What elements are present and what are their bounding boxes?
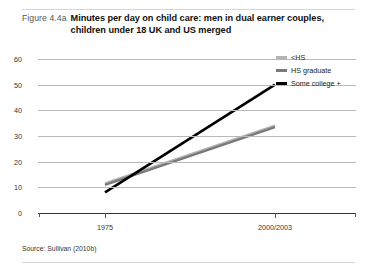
gridline-30 [38, 136, 356, 137]
figure-label: Figure 4.4a [22, 12, 67, 23]
legend-item-2[interactable]: Some college + [276, 78, 372, 89]
gridline-0 [38, 213, 356, 214]
x-axis-tick-1 [275, 213, 276, 218]
y-axis-label-60: 60 [14, 55, 22, 64]
legend-swatch-icon-1 [276, 69, 287, 72]
chart-source-note: Source: Sullivan (2010b) [22, 245, 96, 252]
legend-swatch-icon-0 [276, 56, 287, 59]
page-title: Minutes per day on child care: men in du… [71, 12, 349, 37]
y-axis-label-0: 0 [18, 209, 22, 218]
chart-line-series-2 [105, 85, 275, 193]
x-axis-end-tick-1 [355, 213, 356, 217]
figure-container: Figure 4.4aMinutes per day on child care… [0, 0, 376, 278]
legend-label-1: HS graduate [291, 66, 331, 75]
y-axis-label-30: 30 [14, 132, 22, 141]
top-divider [22, 9, 355, 10]
y-axis-label-20: 20 [14, 157, 22, 166]
bottom-divider [22, 262, 355, 263]
gridline-20 [38, 162, 356, 163]
gridline-40 [38, 110, 356, 111]
x-axis-end-tick-0 [39, 213, 40, 217]
legend-item-1[interactable]: HS graduate [276, 65, 372, 76]
y-axis-label-40: 40 [14, 106, 22, 115]
figure-title-block: Figure 4.4aMinutes per day on child care… [22, 12, 356, 37]
x-axis-label-1: 2000/2003 [258, 223, 292, 232]
legend-item-0[interactable]: <HS [276, 52, 372, 63]
x-axis-tick-0 [105, 213, 106, 218]
y-axis-label-10: 10 [14, 183, 22, 192]
legend-label-2: Some college + [291, 79, 341, 88]
y-axis-label-50: 50 [14, 80, 22, 89]
gridline-10 [38, 187, 356, 188]
legend-swatch-icon-2 [276, 82, 287, 85]
chart-legend: <HSHS graduateSome college + [276, 52, 372, 91]
x-axis-label-0: 1975 [97, 223, 113, 232]
legend-label-0: <HS [291, 53, 305, 62]
